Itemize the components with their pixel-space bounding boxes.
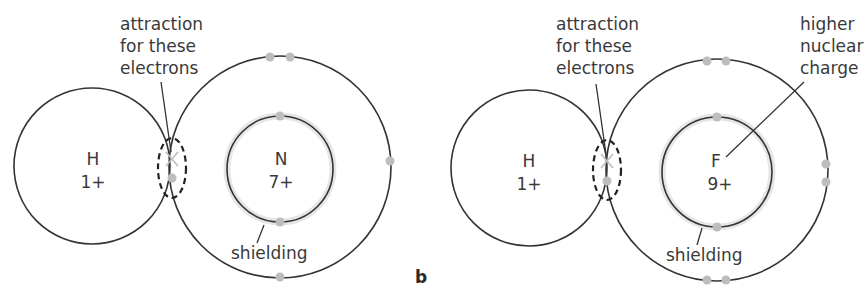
shielding-label: shielding: [231, 243, 308, 263]
attraction-label-line2: for these: [556, 36, 632, 56]
nuclear-charge-label-line2: nuclear: [800, 36, 863, 56]
panel-letter-b: b: [415, 267, 427, 287]
shielding-pointer: [697, 228, 702, 245]
atom-symbol-h: H: [87, 149, 100, 169]
attraction-label-line1: attraction: [556, 14, 639, 34]
electron-dot-icon: [276, 112, 285, 121]
diagram-canvas: H 1+ N 7+ attraction for these electrons…: [0, 0, 866, 288]
attraction-pointer: [596, 84, 606, 154]
nitrogen-inner-shell: [227, 116, 333, 222]
electron-dot-icon: [603, 177, 612, 186]
shielding-label: shielding: [666, 245, 743, 265]
attraction-label-line2: for these: [120, 36, 196, 56]
nuclear-charge-label-line3: charge: [800, 58, 858, 78]
electron-dot-icon: [722, 57, 731, 66]
atom-symbol-h: H: [523, 151, 536, 171]
atom-charge-h: 1+: [80, 172, 105, 192]
electron-dot-icon: [276, 218, 285, 227]
electron-dot-icon: [703, 276, 712, 285]
electron-dot-icon: [722, 276, 731, 285]
shielding-pointer: [257, 225, 264, 243]
atom-charge-n: 7+: [268, 172, 293, 192]
electron-dot-icon: [266, 53, 275, 62]
panel-hn: H 1+ N 7+ attraction for these electrons…: [14, 14, 395, 282]
electron-dot-icon: [276, 273, 285, 282]
electron-cross-icon: [166, 152, 178, 166]
panel-hf: H 1+ F 9+ attraction for these electrons…: [451, 14, 863, 285]
atom-charge-f: 9+: [707, 174, 732, 194]
attraction-label-line3: electrons: [556, 58, 634, 78]
fluorine-inner-shell: [662, 117, 772, 227]
atom-charge-h: 1+: [516, 174, 541, 194]
atom-symbol-n: N: [275, 149, 288, 169]
electron-dot-icon: [713, 223, 722, 232]
electron-dot-icon: [713, 113, 722, 122]
attraction-label-line1: attraction: [120, 14, 203, 34]
electron-dot-icon: [703, 57, 712, 66]
electron-dot-icon: [168, 174, 177, 183]
electron-dot-icon: [822, 160, 831, 169]
nuclear-charge-label-line1: higher: [800, 14, 855, 34]
electron-dot-icon: [286, 53, 295, 62]
electron-dot-icon: [822, 178, 831, 187]
attraction-label-line3: electrons: [120, 58, 198, 78]
electron-dot-icon: [386, 157, 395, 166]
atom-symbol-f: F: [711, 151, 721, 171]
